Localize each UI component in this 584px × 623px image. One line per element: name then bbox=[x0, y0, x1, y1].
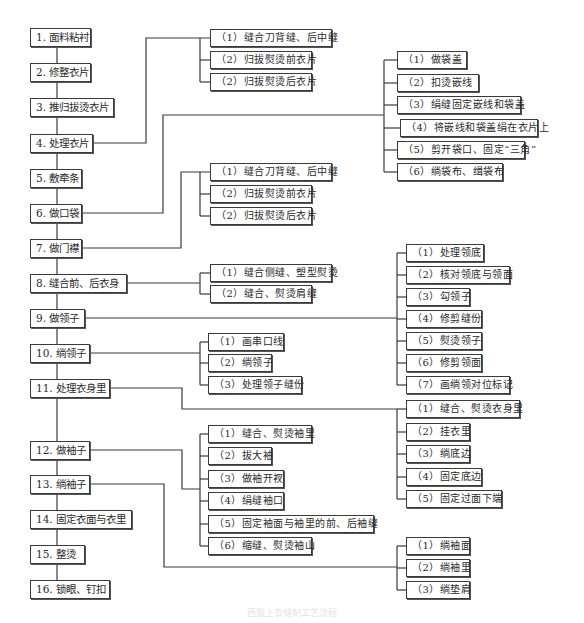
sub-label: （5）固定过面下端 bbox=[412, 494, 503, 504]
step12-sub-5: （5）固定袖面与袖里的前、后袖缝 bbox=[208, 515, 374, 533]
step11-sub-3: （3）绱底边 bbox=[406, 445, 470, 463]
step-11-box: 11. 处理衣身里 bbox=[30, 379, 110, 398]
sub-label: （5）固定袖面与袖里的前、后袖缝 bbox=[214, 519, 378, 529]
sub-label: （1）画串口线 bbox=[214, 337, 284, 347]
step11-sub-1: （1）缝合、熨烫衣身里 bbox=[406, 400, 520, 418]
step-label: 14. 固定衣面与衣里 bbox=[36, 514, 126, 525]
sub-label: （6）缩缝、熨烫袖山 bbox=[214, 541, 315, 551]
flowchart-canvas: 1. 面料粘衬 2. 修整衣片 3. 推归拔烫衣片 4. 处理衣片 5. 敷牵条… bbox=[0, 0, 584, 623]
step-16-box: 16. 锁眼、钉扣 bbox=[30, 580, 110, 599]
step9-sub-3: （3）勾领子 bbox=[406, 288, 470, 306]
step-4-box: 4. 处理衣片 bbox=[30, 134, 93, 153]
sub-label: （4）将嵌线和袋盖绢在衣片上 bbox=[406, 123, 549, 133]
step-8-box: 8. 缝合前、后衣身 bbox=[30, 274, 127, 293]
step4-sub-1: （1）缝合刀背缝、后中缝 bbox=[210, 29, 332, 47]
step9-sub-5: （5）熨烫领子 bbox=[406, 332, 482, 350]
step-1-box: 1. 面料粘衬 bbox=[30, 28, 91, 47]
step6-sub-4: （4）将嵌线和袋盖绢在衣片上 bbox=[400, 119, 538, 137]
sub-label: （4）固定底边 bbox=[412, 472, 482, 482]
sub-label: （2）归拔熨烫后衣片 bbox=[216, 77, 317, 87]
sub-label: （1）缝合、熨烫袖里 bbox=[214, 429, 315, 439]
step12-sub-1: （1）缝合、熨烫袖里 bbox=[208, 425, 312, 443]
step9-sub-1: （1）处理领底 bbox=[406, 244, 484, 262]
sub-label: （1）缝合刀背缝、后中缝 bbox=[216, 33, 338, 43]
step-label: 13. 绱袖子 bbox=[36, 479, 86, 490]
sub-label: （4）修剪缝份 bbox=[412, 314, 482, 324]
step-label: 1. 面料粘衬 bbox=[36, 32, 89, 43]
step13-sub-2: （2）绱袖里 bbox=[406, 559, 470, 577]
step-label: 8. 缝合前、后衣身 bbox=[36, 278, 119, 289]
step-9-box: 9. 做领子 bbox=[30, 309, 85, 328]
step-10-box: 10. 绱领子 bbox=[30, 344, 90, 363]
sub-label: （2）拔大袖 bbox=[214, 451, 273, 461]
step12-sub-6: （6）缩缝、熨烫袖山 bbox=[208, 537, 312, 555]
step-label: 6. 做口袋 bbox=[36, 208, 79, 219]
sub-label: （3）处理领子缝份 bbox=[214, 380, 305, 390]
sub-label: （2）归拔熨烫前衣片 bbox=[216, 189, 317, 199]
sub-label: （2）绱领子 bbox=[214, 358, 273, 368]
step9-sub-6: （6）修剪领面 bbox=[406, 354, 482, 372]
step-label: 9. 做领子 bbox=[36, 313, 79, 324]
step10-sub-1: （1）画串口线 bbox=[208, 333, 284, 351]
step-label: 3. 推归拔烫衣片 bbox=[36, 102, 109, 113]
step6-sub-3: （3）绢缝固定嵌线和袋盖 bbox=[397, 96, 521, 114]
step9-sub-4: （4）修剪缝份 bbox=[406, 310, 482, 328]
step-15-box: 15. 整烫 bbox=[30, 545, 85, 564]
sub-label: （5）熨烫领子 bbox=[412, 336, 482, 346]
sub-label: （1）缝合侧缝、塑型熨烫 bbox=[216, 268, 338, 278]
sub-label: （2）绱袖里 bbox=[412, 563, 471, 573]
step-label: 4. 处理衣片 bbox=[36, 138, 89, 149]
sub-label: （1）做袋盖 bbox=[403, 55, 462, 65]
figure-caption: 西服上衣缝制工艺流程 bbox=[0, 606, 584, 619]
sub-label: （3）做袖开衩 bbox=[214, 474, 284, 484]
sub-label: （2）归拔熨烫前衣片 bbox=[216, 55, 317, 65]
sub-label: （6）绱袋布、缉袋布 bbox=[403, 167, 504, 177]
step8-sub-1: （1）缝合侧缝、塑型熨烫 bbox=[210, 264, 332, 282]
step7-sub-1: （1）缝合刀背缝、后中缝 bbox=[210, 163, 332, 181]
sub-label: （1）缝合刀背缝、后中缝 bbox=[216, 167, 338, 177]
step10-sub-2: （2）绱领子 bbox=[208, 354, 272, 372]
step-label: 2. 修整衣片 bbox=[36, 67, 89, 78]
sub-label: （3）绱底边 bbox=[412, 449, 471, 459]
step7-sub-2: （2）归拔熨烫前衣片 bbox=[210, 185, 312, 203]
step9-sub-7: （7）画绱领对位标记 bbox=[406, 376, 510, 394]
step-label: 12. 做袖子 bbox=[36, 445, 86, 456]
step6-sub-6: （6）绱袋布、缉袋布 bbox=[397, 163, 503, 181]
step-label: 16. 锁眼、钉扣 bbox=[36, 584, 106, 595]
sub-label: （1）处理领底 bbox=[412, 248, 482, 258]
step8-sub-2: （2）缝合、熨烫肩缝 bbox=[210, 285, 312, 303]
step-2-box: 2. 修整衣片 bbox=[30, 63, 91, 82]
sub-label: （2）缝合、熨烫肩缝 bbox=[216, 289, 317, 299]
step11-sub-4: （4）固定底边 bbox=[406, 468, 482, 486]
step12-sub-4: （4）绢缝袖口 bbox=[208, 492, 284, 510]
step-6-box: 6. 做口袋 bbox=[30, 204, 82, 223]
sub-label: （2）扣烫嵌线 bbox=[403, 78, 473, 88]
step-label: 15. 整烫 bbox=[36, 549, 76, 560]
step11-sub-2: （2）挂衣里 bbox=[406, 423, 470, 441]
step13-sub-1: （1）绱袖面 bbox=[406, 537, 470, 555]
step6-sub-1: （1）做袋盖 bbox=[397, 51, 467, 69]
step7-sub-3: （2）归拔熨烫后衣片 bbox=[210, 207, 312, 225]
step9-sub-2: （2）核对领底与领面 bbox=[406, 266, 510, 284]
step-label: 11. 处理衣身里 bbox=[36, 383, 106, 394]
step12-sub-2: （2）拔大袖 bbox=[208, 447, 272, 465]
step-label: 7. 做门襟 bbox=[36, 243, 79, 254]
step-label: 5. 敷牵条 bbox=[36, 173, 79, 184]
step-3-box: 3. 推归拔烫衣片 bbox=[30, 98, 114, 117]
step4-sub-2: （2）归拔熨烫前衣片 bbox=[210, 51, 312, 69]
sub-label: （2）归拔熨烫后衣片 bbox=[216, 211, 317, 221]
step6-sub-2: （2）扣烫嵌线 bbox=[397, 74, 479, 92]
sub-label: （7）画绱领对位标记 bbox=[412, 380, 513, 390]
step12-sub-3: （3）做袖开衩 bbox=[208, 470, 284, 488]
sub-label: （6）修剪领面 bbox=[412, 358, 482, 368]
sub-label: （4）绢缝袖口 bbox=[214, 496, 284, 506]
step-5-box: 5. 敷牵条 bbox=[30, 169, 82, 188]
sub-label: （2）核对领底与领面 bbox=[412, 270, 513, 280]
step-14-box: 14. 固定衣面与衣里 bbox=[30, 510, 132, 529]
step11-sub-5: （5）固定过面下端 bbox=[406, 490, 502, 508]
step-13-box: 13. 绱袖子 bbox=[30, 475, 90, 494]
sub-label: （3）绱垫肩 bbox=[412, 585, 471, 595]
sub-label: （2）挂衣里 bbox=[412, 427, 471, 437]
sub-label: （1）缝合、熨烫衣身里 bbox=[412, 404, 524, 414]
step-12-box: 12. 做袖子 bbox=[30, 441, 90, 460]
